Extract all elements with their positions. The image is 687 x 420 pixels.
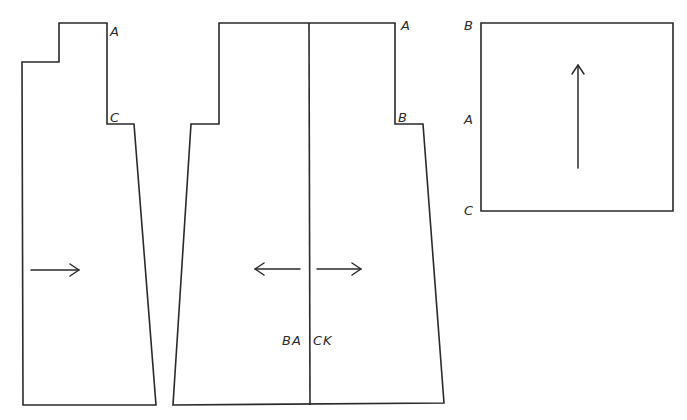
point-label-b: B	[464, 18, 473, 33]
piece-title-right: CK	[313, 333, 333, 348]
piece-outline	[22, 23, 156, 405]
grainline-arrow-right-icon	[31, 264, 79, 276]
point-label-a: A	[400, 18, 410, 33]
center-back-line	[309, 23, 310, 405]
point-label-c: C	[110, 110, 120, 125]
point-label-a: A	[463, 112, 473, 127]
piece-title-left: BA	[282, 333, 302, 348]
pattern-piece-front: A C	[22, 23, 156, 405]
grainline-arrow-up-icon	[572, 65, 584, 168]
piece-outline	[481, 23, 673, 211]
point-label-b: B	[398, 110, 407, 125]
pattern-diagram: A C A B BA CK B A C	[0, 0, 687, 420]
grainline-arrow-right-icon	[317, 263, 361, 275]
pattern-piece-square: B A C	[463, 18, 673, 218]
pattern-piece-back: A B BA CK	[173, 18, 444, 405]
point-label-a: A	[109, 24, 119, 39]
grainline-arrow-left-icon	[255, 263, 300, 275]
point-label-c: C	[464, 203, 474, 218]
